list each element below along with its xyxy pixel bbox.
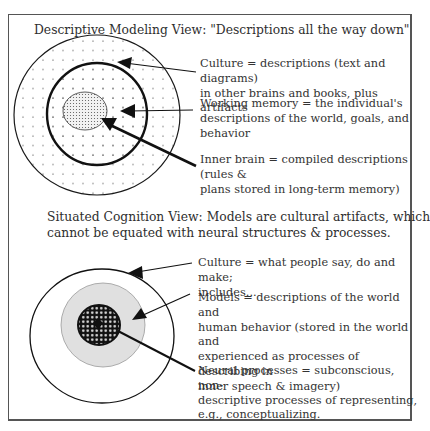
top-concentric-circles: [14, 35, 180, 195]
top-view-title: Descriptive Modeling View: "Descriptions…: [34, 23, 410, 38]
top-inner-brain-label: Inner brain = compiled descriptions (rul…: [200, 153, 422, 197]
bottom-neural-label: Neural processes = subconscious, non- de…: [198, 364, 422, 423]
top-inner-brain-circle: [63, 92, 107, 130]
arrow-bottom-culture: [137, 263, 192, 272]
top-working-memory-label: Working memory = the individual's descri…: [200, 97, 409, 141]
bottom-concentric-circles: [30, 269, 174, 403]
bottom-view-title: Situated Cognition View: Models are cult…: [47, 210, 430, 241]
